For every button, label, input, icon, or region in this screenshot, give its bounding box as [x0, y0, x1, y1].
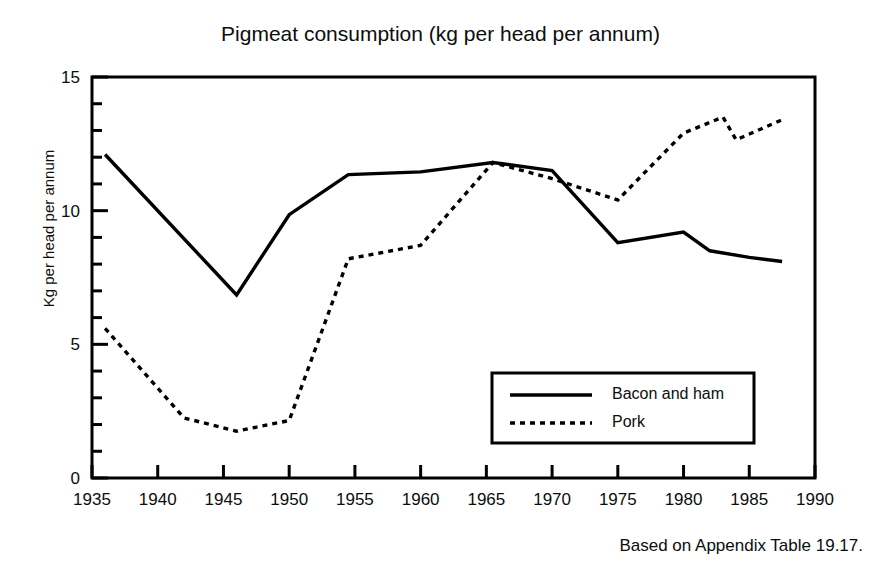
legend-label: Pork: [612, 413, 646, 430]
y-axis-tick-labels: 051015: [61, 68, 80, 488]
chart-figure: Pigmeat consumption (kg per head per ann…: [0, 0, 881, 586]
y-tick-label: 5: [71, 335, 80, 354]
x-tick-label: 1970: [533, 490, 571, 509]
line-chart-plot: 051015 193519401945195019551960196519701…: [0, 0, 881, 586]
x-tick-label: 1965: [467, 490, 505, 509]
x-tick-label: 1985: [730, 490, 768, 509]
x-tick-label: 1945: [205, 490, 243, 509]
x-tick-label: 1990: [796, 490, 834, 509]
x-tick-label: 1940: [139, 490, 177, 509]
source-note: Based on Appendix Table 19.17.: [619, 536, 863, 556]
x-tick-label: 1960: [402, 490, 440, 509]
legend-label: Bacon and ham: [612, 385, 724, 402]
y-tick-label: 0: [71, 469, 80, 488]
chart-legend: Bacon and hamPork: [492, 373, 754, 443]
y-tick-label: 15: [61, 68, 80, 87]
x-tick-label: 1955: [336, 490, 374, 509]
x-tick-label: 1975: [599, 490, 637, 509]
x-tick-label: 1935: [73, 490, 111, 509]
x-axis-tick-labels: 1935194019451950195519601965197019751980…: [73, 490, 834, 509]
x-tick-label: 1950: [270, 490, 308, 509]
x-tick-label: 1980: [665, 490, 703, 509]
y-tick-label: 10: [61, 202, 80, 221]
legend-box: [492, 373, 754, 443]
